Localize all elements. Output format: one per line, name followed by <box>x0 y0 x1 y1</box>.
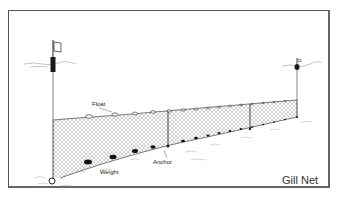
anchor-label: Anchor <box>153 159 172 165</box>
anchor-leader-line <box>164 150 167 158</box>
weight-label: Weight <box>100 169 119 175</box>
net-mesh <box>53 100 297 178</box>
water-surface-right <box>282 62 322 67</box>
float-leader-line <box>99 108 112 112</box>
water-surface-left <box>24 62 76 67</box>
marker-buoy-right <box>295 58 302 100</box>
float-label: Float <box>92 101 105 107</box>
marker-buoy-left <box>51 40 62 120</box>
gill-net-illustration <box>0 0 342 201</box>
flag-icon <box>54 42 61 52</box>
diagram-title: Gill Net <box>282 174 318 186</box>
